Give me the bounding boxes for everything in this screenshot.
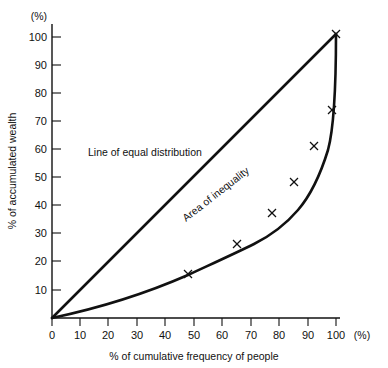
y-tick-label: 10 — [35, 284, 47, 296]
data-point-marker — [310, 142, 318, 150]
x-axis-ticks — [52, 318, 336, 326]
x-axis-tick-labels: 0 10 20 30 40 50 60 70 80 90 100 — [49, 329, 345, 341]
x-tick-label: 70 — [245, 329, 257, 341]
x-tick-label: 10 — [74, 329, 86, 341]
data-point-marker — [233, 240, 241, 248]
y-tick-label: 100 — [29, 31, 47, 43]
x-tick-label: 80 — [273, 329, 285, 341]
y-tick-label: 60 — [35, 143, 47, 155]
y-tick-label: 70 — [35, 115, 47, 127]
y-tick-label: 50 — [35, 171, 47, 183]
x-axis-unit-label: (%) — [354, 329, 370, 341]
y-tick-label: 80 — [35, 87, 47, 99]
y-axis-tick-labels: 100 90 80 70 60 50 40 30 20 10 — [29, 31, 47, 296]
x-tick-label: 20 — [102, 329, 114, 341]
x-tick-label: 40 — [159, 329, 171, 341]
y-tick-label: 40 — [35, 199, 47, 211]
x-tick-label: 90 — [302, 329, 314, 341]
data-point-marker — [290, 178, 298, 186]
lorenz-curve-chart: 100 90 80 70 60 50 40 30 20 10 (%) — [0, 0, 388, 368]
y-axis-unit-label: (%) — [31, 10, 47, 22]
y-tick-label: 30 — [35, 227, 47, 239]
y-axis-title: % of accumulated wealth — [6, 112, 18, 229]
chart-plot-area: 100 90 80 70 60 50 40 30 20 10 (%) — [0, 0, 388, 368]
x-tick-label: 30 — [131, 329, 143, 341]
y-axis-ticks — [52, 37, 61, 290]
x-tick-label: 0 — [49, 329, 55, 341]
x-tick-label: 50 — [188, 329, 200, 341]
area-of-inequality-label: Area of inequality — [180, 164, 252, 224]
line-of-equal-distribution-label: Line of equal distribution — [88, 146, 202, 158]
line-of-equal-distribution — [52, 34, 336, 318]
x-tick-label: 60 — [216, 329, 228, 341]
y-tick-label: 20 — [35, 255, 47, 267]
x-axis-title: % of cumulative frequency of people — [109, 350, 278, 362]
y-tick-label: 90 — [35, 59, 47, 71]
data-point-marker — [268, 209, 276, 217]
x-tick-label: 100 — [327, 329, 345, 341]
